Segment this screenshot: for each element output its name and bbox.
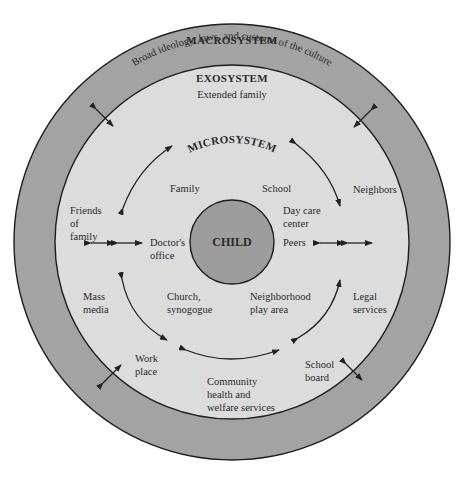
micro-family: Family (170, 183, 201, 194)
exo-extended-family: Extended family (197, 89, 267, 100)
exo-neighbors: Neighbors (353, 184, 397, 195)
micro-school: School (262, 183, 291, 194)
exosystem-title: EXOSYSTEM (196, 72, 268, 84)
child-label: CHILD (212, 235, 252, 249)
bronfenbrenner-ecological-diagram: MACROSYSTEM Broad ideology, laws, and cu… (0, 0, 464, 480)
micro-peers: Peers (283, 237, 306, 248)
